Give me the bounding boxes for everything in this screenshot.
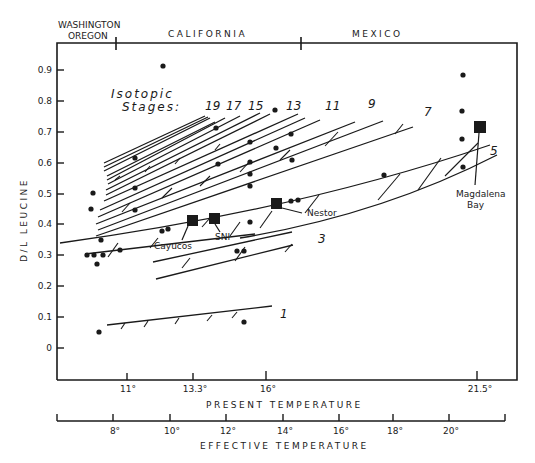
- y-axis-ticks: [57, 70, 64, 348]
- effective-tick-18: 18°: [387, 426, 403, 436]
- y-tick-0.1: 0.1: [38, 312, 52, 322]
- isotopic-stage-lines: [60, 113, 497, 325]
- present-tick-13.3: 13.3°: [183, 384, 208, 394]
- effective-tick-12: 12°: [220, 426, 236, 436]
- region-label-oregon: OREGON: [68, 31, 108, 41]
- locality-leaders: [182, 133, 479, 240]
- y-tick-0.9: 0.9: [38, 65, 53, 75]
- y-tick-0.7: 0.7: [38, 127, 52, 137]
- locality-label-cayucos: Cayucos: [154, 241, 192, 251]
- marker-magdalena-bay: [474, 121, 486, 133]
- locality-label-sni: SNI: [215, 232, 230, 242]
- present-temp-tick-labels: 11° 13.3° 16° 21.5°: [120, 384, 492, 394]
- effective-tick-20: 20°: [443, 426, 459, 436]
- dl-leucine-chart: WASHINGTON OREGON CALIFORNIA MEXICO 0 0.…: [0, 0, 535, 463]
- y-tick-0: 0: [46, 343, 52, 353]
- present-temp-axis-label: PRESENT TEMPERATURE: [206, 400, 363, 410]
- stage-label-11: 11: [325, 99, 340, 113]
- stage-label-17: 17: [226, 99, 242, 113]
- effective-tick-10: 10°: [164, 426, 180, 436]
- isotopic-label-line2: Stages:: [122, 100, 181, 114]
- present-tick-21.5: 21.5°: [468, 384, 493, 394]
- y-tick-0.5: 0.5: [38, 189, 52, 199]
- marker-nestor: [271, 198, 282, 209]
- effective-tick-8: 8°: [110, 426, 120, 436]
- y-axis-label: D/L LEUCINE: [19, 178, 29, 262]
- y-tick-0.4: 0.4: [38, 219, 53, 229]
- stage-labels: 19 17 15 13 11 9 7 5 3 1: [205, 97, 498, 321]
- stage-label-1: 1: [280, 307, 288, 321]
- stage-label-13: 13: [286, 99, 301, 113]
- effective-temp-axis-label: EFFECTIVE TEMPERATURE: [200, 441, 369, 451]
- y-axis-tick-labels: 0 0.1 0.2 0.3 0.4 0.5 0.6 0.7 0.8 0.9: [38, 65, 53, 353]
- marker-cayucos: [187, 215, 198, 226]
- stage-label-19: 19: [205, 99, 220, 113]
- present-temp-ticks: [127, 371, 477, 380]
- locality-label-nestor: Nestor: [307, 208, 337, 218]
- effective-temp-axis: [57, 414, 505, 421]
- present-tick-11: 11°: [120, 384, 136, 394]
- y-tick-0.8: 0.8: [38, 96, 53, 106]
- region-label-washington: WASHINGTON: [58, 20, 120, 30]
- stage-label-9: 9: [368, 97, 376, 111]
- stage-label-15: 15: [248, 99, 263, 113]
- locality-label-magdalena: Magdalena: [456, 189, 505, 199]
- effective-tick-16: 16°: [333, 426, 349, 436]
- stage-label-5: 5: [490, 144, 498, 158]
- region-label-california: CALIFORNIA: [168, 29, 247, 39]
- stage-label-7: 7: [424, 105, 432, 119]
- y-tick-0.3: 0.3: [38, 250, 52, 260]
- isotopic-label-line1: Isotopic: [111, 87, 174, 101]
- effective-temp-tick-labels: 8° 10° 12° 14° 16° 18° 20°: [110, 426, 459, 436]
- locality-label-bay: Bay: [467, 200, 485, 210]
- y-tick-0.2: 0.2: [38, 281, 52, 291]
- marker-sni: [209, 213, 220, 224]
- region-label-mexico: MEXICO: [352, 29, 403, 39]
- stage-label-3: 3: [318, 232, 326, 246]
- effective-tick-14: 14°: [277, 426, 293, 436]
- present-tick-16: 16°: [260, 384, 276, 394]
- y-tick-0.6: 0.6: [38, 158, 53, 168]
